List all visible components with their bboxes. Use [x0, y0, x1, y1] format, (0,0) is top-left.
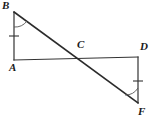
geometry-canvas	[0, 0, 152, 118]
vertex-label-a: A	[9, 62, 16, 73]
angle-arc-b	[14, 21, 27, 27]
vertex-label-f: F	[138, 106, 145, 117]
vertex-label-d: D	[140, 41, 148, 52]
vertex-label-b: B	[2, 0, 9, 11]
vertex-label-c: C	[77, 39, 84, 50]
geometry-figure: B A C D F	[0, 0, 152, 118]
